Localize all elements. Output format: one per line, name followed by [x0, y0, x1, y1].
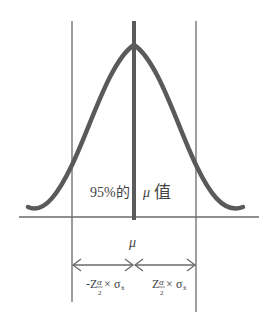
- svg-text:σ: σ: [176, 277, 183, 291]
- svg-text:×: ×: [166, 277, 173, 291]
- region-label-mu: μ: [142, 185, 150, 200]
- region-label-suffix: 值: [154, 182, 171, 202]
- mean-label: μ: [128, 235, 136, 250]
- svg-text:α: α: [97, 277, 102, 287]
- svg-text:x̄: x̄: [121, 284, 125, 292]
- right-interval-label: Z α 2 × σ x̄: [152, 277, 187, 297]
- svg-text:σ: σ: [114, 277, 121, 291]
- svg-text:2: 2: [98, 289, 102, 297]
- diagram-svg: 95%的 μ 值 μ - Z α 2 × σ x̄ Z α: [0, 0, 272, 332]
- interval-arrows: [73, 259, 195, 271]
- svg-text:×: ×: [104, 277, 111, 291]
- svg-text:2: 2: [160, 289, 164, 297]
- normal-distribution-diagram: 95%的 μ 值 μ - Z α 2 × σ x̄ Z α: [0, 0, 272, 332]
- left-interval-label: - Z α 2 × σ x̄: [86, 277, 125, 297]
- svg-text:x̄: x̄: [183, 284, 187, 292]
- svg-text:α: α: [159, 277, 164, 287]
- region-label-prefix: 95%的: [90, 185, 130, 200]
